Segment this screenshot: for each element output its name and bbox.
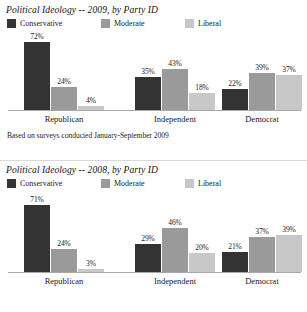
- legend-2009: Conservative Moderate Liberal: [0, 19, 307, 28]
- bar-value-label: 37%: [272, 65, 306, 74]
- plot-area-2008: 71%24%3%Republican29%46%20%Independent21…: [0, 192, 307, 292]
- bar: [276, 75, 302, 110]
- bar-value-label: 43%: [158, 59, 192, 68]
- bar: [222, 89, 248, 110]
- bar: [222, 252, 248, 272]
- bar-value-label: 18%: [185, 83, 219, 92]
- bar-value-label: 3%: [74, 259, 108, 268]
- legend-swatch-moderate: [101, 19, 110, 28]
- panel-2008: Political Ideology -- 2008, by Party ID …: [0, 155, 307, 305]
- plot-area-2009: 72%24%4%Republican35%43%18%Independent22…: [0, 32, 307, 127]
- chart-title-2008: Political Ideology -- 2008, by Party ID: [0, 155, 307, 175]
- bar: [276, 235, 302, 272]
- legend-label-moderate: Moderate: [114, 19, 145, 28]
- bar-value-label: 24%: [47, 77, 81, 86]
- bar-value-label: 29%: [131, 234, 165, 243]
- bar-value-label: 71%: [20, 195, 54, 204]
- x-axis-group-label: Democrat: [206, 114, 307, 124]
- bar-value-label: 20%: [185, 243, 219, 252]
- bar-value-label: 22%: [218, 79, 252, 88]
- legend-item-moderate: Moderate: [101, 19, 185, 28]
- bar-value-label: 4%: [74, 96, 108, 105]
- bar-value-label: 46%: [158, 218, 192, 227]
- legend-swatch-conservative: [7, 179, 16, 188]
- legend-2008: Conservative Moderate Liberal: [0, 179, 307, 188]
- legend-item-conservative: Conservative: [7, 19, 101, 28]
- bar: [249, 73, 275, 110]
- legend-label-liberal: Liberal: [198, 179, 221, 188]
- x-axis-line: [8, 272, 301, 273]
- legend-item-liberal-2008: Liberal: [185, 179, 255, 188]
- bar: [249, 237, 275, 272]
- chart-page: Political Ideology -- 2009, by Party ID …: [0, 0, 307, 312]
- bar: [189, 93, 215, 110]
- bar: [189, 253, 215, 272]
- legend-swatch-conservative: [7, 19, 16, 28]
- legend-swatch-moderate: [101, 179, 110, 188]
- legend-label-liberal: Liberal: [198, 19, 221, 28]
- legend-item-moderate-2008: Moderate: [101, 179, 185, 188]
- legend-swatch-liberal: [185, 179, 194, 188]
- panel-2009: Political Ideology -- 2009, by Party ID …: [0, 0, 307, 155]
- legend-swatch-liberal: [185, 19, 194, 28]
- legend-item-conservative-2008: Conservative: [7, 179, 101, 188]
- x-axis-line: [8, 110, 301, 111]
- x-axis-group-label: Republican: [8, 114, 120, 124]
- bar-value-label: 24%: [47, 239, 81, 248]
- chart-title-2009: Political Ideology -- 2009, by Party ID: [0, 0, 307, 15]
- legend-item-liberal: Liberal: [185, 19, 255, 28]
- bar-value-label: 39%: [272, 225, 306, 234]
- bar: [78, 269, 104, 272]
- bar: [24, 42, 50, 110]
- x-axis-group-label: Republican: [8, 276, 120, 286]
- bar: [135, 244, 161, 272]
- x-axis-group-label: Democrat: [206, 276, 307, 286]
- bar: [135, 77, 161, 110]
- legend-label-conservative: Conservative: [20, 179, 62, 188]
- legend-label-moderate: Moderate: [114, 179, 145, 188]
- footnote-2009: Based on surveys conducted January-Septe…: [0, 131, 307, 140]
- bar-value-label: 21%: [218, 242, 252, 251]
- bar-value-label: 72%: [20, 32, 54, 41]
- bar-value-label: 35%: [131, 67, 165, 76]
- legend-label-conservative: Conservative: [20, 19, 62, 28]
- bar: [78, 106, 104, 110]
